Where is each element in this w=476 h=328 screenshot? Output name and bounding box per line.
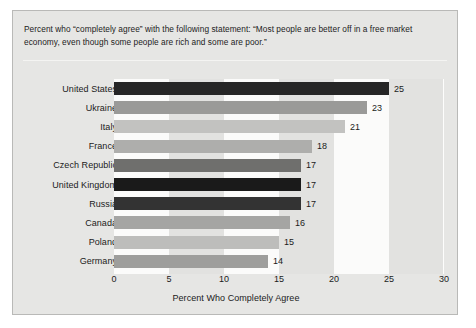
bar [114,236,279,249]
bar-row: United States25 [13,79,459,98]
bar-row: Germany14 [13,252,459,271]
bar-value-label: 14 [273,256,283,266]
bar-row-label: Russia [89,199,117,209]
bar-row-label: United States [62,84,117,94]
bar [114,216,290,229]
bar-value-label: 15 [284,237,294,247]
x-axis-title: Percent Who Completely Agree [13,293,459,303]
x-tick-label: 20 [329,274,339,284]
bar [114,101,367,114]
bar-row-label: Poland [89,237,117,247]
x-tick-label: 10 [219,274,229,284]
bar-row-label: Czech Republic [53,160,117,170]
bar [114,197,301,210]
x-tick-label: 0 [111,274,116,284]
figure-panel: Percent who “completely agree” with the … [12,10,458,315]
bar-value-label: 16 [295,218,305,228]
bar [114,82,389,95]
bar-value-label: 25 [394,84,404,94]
bar [114,255,268,268]
bar-value-label: 23 [372,103,382,113]
bar-row-label: Germany [80,256,117,266]
bar-rows: United States25Ukraine23Italy21France18C… [13,79,459,274]
bar [114,120,345,133]
bar-value-label: 18 [317,141,327,151]
x-tick-label: 5 [166,274,171,284]
bar [114,140,312,153]
bar-row: Ukraine23 [13,98,459,117]
bar-value-label: 21 [350,122,360,132]
x-axis-ticks: 051015202530 [114,274,444,290]
x-tick-label: 15 [274,274,284,284]
bar [114,159,301,172]
caption-divider [23,60,447,61]
x-tick-label: 30 [439,274,449,284]
bar-row: Canada16 [13,213,459,232]
bar [114,178,301,191]
bar-value-label: 17 [306,199,316,209]
bar-row: Italy21 [13,117,459,136]
bar-row: Poland15 [13,233,459,252]
bar-value-label: 17 [306,180,316,190]
bar-value-label: 17 [306,160,316,170]
bar-row-label: United Kingdom [52,180,117,190]
bar-row: France18 [13,137,459,156]
x-tick-label: 25 [384,274,394,284]
bar-row: United Kingdom17 [13,175,459,194]
bar-row-label: Canada [85,218,117,228]
chart-caption: Percent who “completely agree” with the … [24,23,444,48]
bar-row: Russia17 [13,194,459,213]
bar-row-label: France [89,141,117,151]
bar-row: Czech Republic17 [13,156,459,175]
bar-row-label: Ukraine [86,103,117,113]
